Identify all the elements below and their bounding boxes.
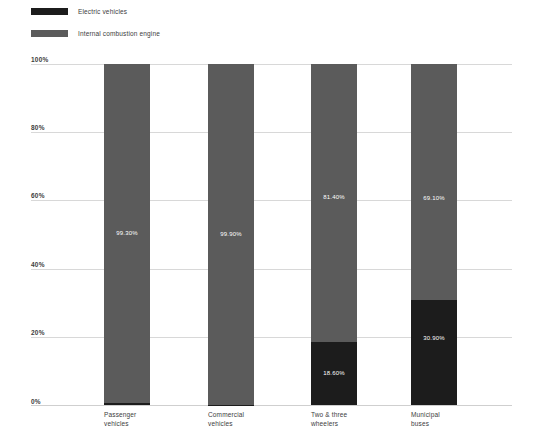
bar-two-and-three-wheelers[interactable]: 81.40% 18.60%	[311, 64, 357, 405]
x-axis-tick-line2-two-and-three-wheelers: wheelers	[311, 420, 391, 429]
bar-segment-label-ice-municipal-buses: 69.10%	[423, 195, 445, 201]
bar-passenger-vehicles[interactable]: 99.30% 0.70%	[104, 64, 150, 405]
bar-segment-label-ice-passenger-vehicles: 99.30%	[116, 230, 138, 236]
bar-segment-label-ice-two-and-three-wheelers: 81.40%	[323, 194, 345, 200]
x-axis-tick-line2-commercial-vehicles: vehicles	[208, 420, 288, 429]
x-axis-tick-two-and-three-wheelers: Two & three wheelers	[311, 411, 391, 428]
bar-municipal-buses[interactable]: 69.10% 30.90%	[411, 64, 457, 405]
bar-segment-ev-passenger-vehicles[interactable]: 0.70%	[104, 403, 150, 405]
y-axis-tick-0: 0%	[31, 398, 41, 406]
x-axis-tick-commercial-vehicles: Commercial vehicles	[208, 411, 288, 428]
x-axis-tick-passenger-vehicles: Passenger vehicles	[104, 411, 184, 428]
bar-commercial-vehicles[interactable]: 99.90% 0.10%	[208, 64, 254, 405]
chart-plot-area: 100% 80% 60% 40% 20% 0% 99.30% 0.70% 99.…	[0, 0, 534, 443]
x-axis-tick-line1-two-and-three-wheelers: Two & three	[311, 411, 391, 420]
x-axis-tick-line1-municipal-buses: Municipal	[411, 411, 491, 420]
bar-segment-ice-municipal-buses[interactable]: 69.10%	[411, 64, 457, 300]
bar-segment-ev-municipal-buses[interactable]: 30.90%	[411, 300, 457, 405]
x-axis-tick-line2-passenger-vehicles: vehicles	[104, 420, 184, 429]
bar-segment-label-ev-two-and-three-wheelers: 18.60%	[323, 370, 345, 376]
y-axis-tick-100: 100%	[31, 56, 48, 64]
bar-segment-ev-two-and-three-wheelers[interactable]: 18.60%	[311, 342, 357, 405]
y-axis-tick-60: 60%	[31, 192, 45, 200]
gridline-0	[31, 405, 512, 406]
bar-segment-ice-commercial-vehicles[interactable]: 99.90%	[208, 64, 254, 405]
bar-segment-label-ice-commercial-vehicles: 99.90%	[220, 231, 242, 237]
x-axis-tick-line2-municipal-buses: buses	[411, 420, 491, 429]
bar-segment-ice-two-and-three-wheelers[interactable]: 81.40%	[311, 64, 357, 342]
x-axis-tick-line1-commercial-vehicles: Commercial	[208, 411, 288, 420]
bar-segment-label-ev-municipal-buses: 30.90%	[423, 335, 445, 341]
y-axis-tick-80: 80%	[31, 124, 45, 132]
x-axis-tick-line1-passenger-vehicles: Passenger	[104, 411, 184, 420]
y-axis-tick-40: 40%	[31, 261, 45, 269]
bar-segment-ice-passenger-vehicles[interactable]: 99.30%	[104, 64, 150, 403]
y-axis-tick-20: 20%	[31, 329, 45, 337]
x-axis-tick-municipal-buses: Municipal buses	[411, 411, 491, 428]
